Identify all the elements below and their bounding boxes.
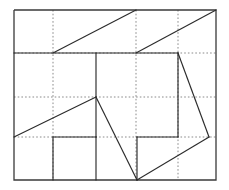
left-long-diagonal [14, 97, 96, 137]
solid-construction-lines [14, 10, 216, 180]
figure-container [0, 0, 229, 190]
top-left-diagonal [53, 10, 136, 53]
center-down-diagonal [96, 97, 137, 180]
geometry-diagram [0, 0, 229, 190]
bottom-right-diagonal [137, 137, 209, 180]
outer-border [14, 10, 216, 180]
outer-rectangle [14, 10, 216, 180]
dotted-grid [14, 10, 216, 180]
top-right-diagonal [136, 10, 216, 53]
right-diagonal [178, 53, 209, 137]
